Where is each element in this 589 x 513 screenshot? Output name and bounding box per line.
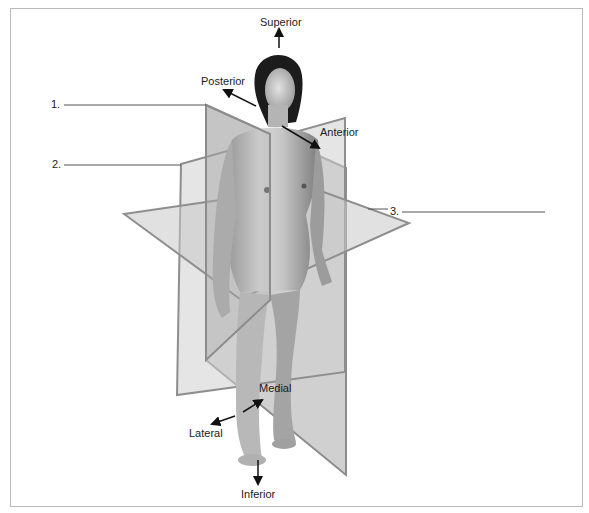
anterior-label: Anterior	[320, 127, 359, 138]
blank-1-number: 1.	[51, 99, 60, 110]
blank-3-number: 3.	[390, 206, 399, 217]
lateral-arrow-icon	[212, 416, 235, 424]
inferior-label: Inferior	[241, 489, 275, 500]
blank-2-number: 2.	[52, 159, 61, 170]
anatomy-diagram	[0, 0, 589, 513]
lateral-label: Lateral	[189, 428, 223, 439]
medial-label: Medial	[259, 383, 291, 394]
posterior-label: Posterior	[201, 76, 245, 87]
posterior-arrow-icon	[224, 90, 256, 106]
superior-label: Superior	[260, 17, 302, 28]
